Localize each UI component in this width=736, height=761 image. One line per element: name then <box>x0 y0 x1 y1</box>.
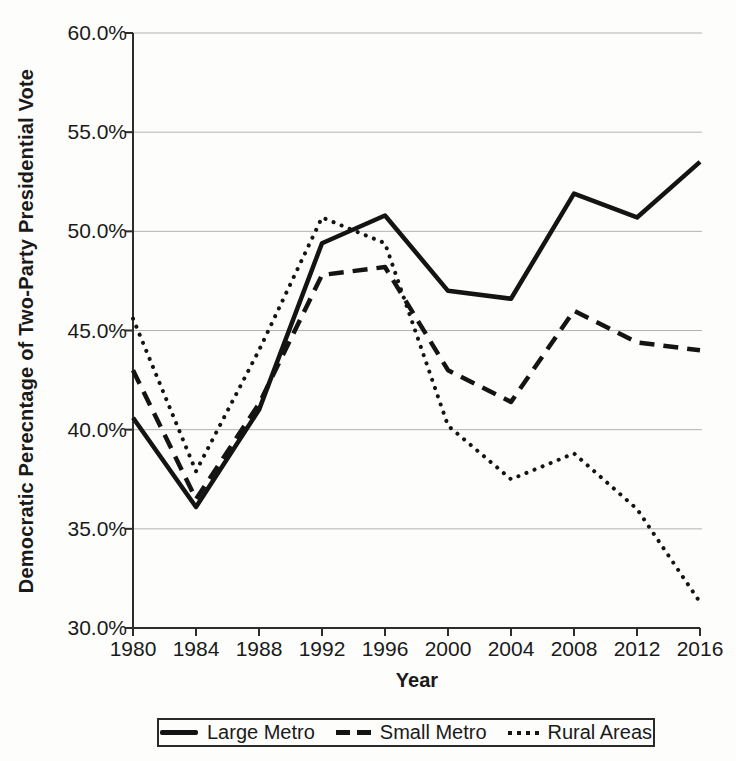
series-line-large-metro <box>133 162 700 507</box>
legend-label-large-metro: Large Metro <box>207 721 315 744</box>
y-axis-tick-label: 35.0% <box>67 518 127 540</box>
y-axis-tick-label: 50.0% <box>67 220 127 242</box>
x-axis-tick-label: 1984 <box>173 638 220 660</box>
series-line-rural-areas <box>133 217 700 602</box>
dashed-line-sample-icon <box>336 730 371 735</box>
y-axis-tick-label: 30.0% <box>67 617 127 639</box>
dotted-line-sample-icon <box>508 731 539 735</box>
x-axis-title: Year <box>396 669 438 692</box>
legend-box: Large Metro Small Metro Rural Areas <box>157 718 655 747</box>
x-axis-tick-label: 1996 <box>362 638 409 660</box>
series-line-small-metro <box>133 267 700 499</box>
legend-item-rural-areas: Rural Areas <box>508 721 653 744</box>
y-axis-tick-label: 45.0% <box>67 320 127 342</box>
legend-label-rural-areas: Rural Areas <box>548 721 653 744</box>
x-axis-tick-label: 2000 <box>425 638 472 660</box>
x-axis-tick-label: 1988 <box>236 638 283 660</box>
x-axis-tick-label: 1980 <box>110 638 157 660</box>
x-axis-tick-label: 2012 <box>614 638 661 660</box>
x-axis-tick-label: 1992 <box>299 638 346 660</box>
legend-label-small-metro: Small Metro <box>380 721 487 744</box>
y-axis-tick-label: 60.0% <box>67 22 127 44</box>
x-axis-tick-label: 2016 <box>677 638 724 660</box>
legend-item-small-metro: Small Metro <box>336 721 487 744</box>
solid-line-sample-icon <box>160 730 198 735</box>
y-axis-tick-label: 40.0% <box>67 419 127 441</box>
legend-item-large-metro: Large Metro <box>160 721 315 744</box>
x-axis-tick-label: 2004 <box>488 638 535 660</box>
chart-page: Democratic Perecntage of Two-Party Presi… <box>0 0 736 761</box>
x-axis-tick-label: 2008 <box>551 638 598 660</box>
y-axis-tick-label: 55.0% <box>67 121 127 143</box>
